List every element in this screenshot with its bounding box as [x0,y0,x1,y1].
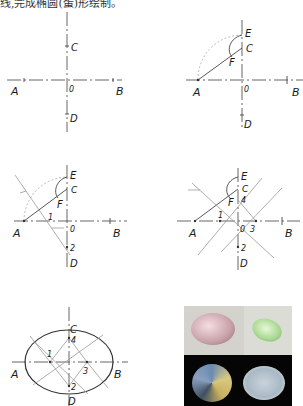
panel-step-1: A B C D 0 [7,12,124,132]
label-2: 2 [241,244,246,253]
label-o: 0 [69,85,74,94]
panel-step-5: A B C 4 1 3 2 D [10,307,128,406]
label-a: A [10,368,19,381]
label-b: B [114,368,122,381]
gemstone-photo [184,306,292,406]
label-d: D [70,113,78,124]
label-c: C [71,185,78,195]
label-2: 2 [71,383,76,392]
label-c: C [242,184,249,194]
label-o: 0 [70,225,75,234]
label-4: 4 [71,336,76,345]
label-1: 1 [218,211,223,220]
label-o: 0 [244,85,249,94]
label-3: 3 [250,225,255,234]
label-d: D [240,258,248,269]
label-f: F [228,197,234,208]
label-o: 0 [240,225,245,234]
pink-oval-gem [191,313,235,345]
panel-step-3: A B E C F 1 0 2 D [12,165,127,270]
label-a: A [10,85,19,98]
label-e: E [70,170,77,181]
label-1: 1 [48,213,53,222]
label-b: B [285,227,293,240]
panel-step-2: A B E C F 0 D [186,20,303,130]
panel-step-4: A B E C F 4 1 0 3 2 D [177,168,300,270]
label-4: 4 [241,196,246,205]
label-b: B [113,227,121,240]
label-c: C [71,42,78,53]
label-2: 2 [70,244,75,253]
label-d: D [70,258,78,269]
label-3: 3 [83,367,88,376]
label-f: F [229,57,235,68]
clear-oval-gem [243,366,285,400]
label-c: C [70,324,77,335]
multicolor-oval-gem [192,364,232,402]
label-e: E [245,28,252,39]
label-d: D [244,119,252,130]
label-b: B [292,86,300,99]
label-d: D [68,396,76,406]
label-c: C [246,43,253,54]
label-a: A [192,86,201,99]
label-b: B [116,85,124,98]
label-1: 1 [47,350,52,359]
label-f: F [57,199,63,210]
label-e: E [241,171,248,182]
label-a: A [188,227,197,240]
label-a: A [12,227,21,240]
